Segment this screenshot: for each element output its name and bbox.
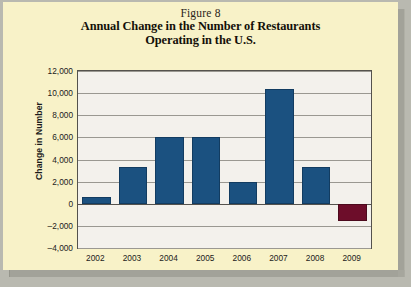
bar[interactable] — [82, 197, 111, 204]
bar[interactable] — [192, 137, 221, 203]
bar[interactable] — [155, 137, 184, 203]
x-axis-tick-label: 2005 — [187, 253, 224, 263]
x-axis-tick-label: 2009 — [333, 253, 370, 263]
gridline — [78, 248, 371, 249]
bar[interactable] — [265, 89, 294, 204]
x-axis-tick-label: 2003 — [114, 253, 151, 263]
bar[interactable] — [229, 182, 258, 204]
y-axis-tick-label: 10,000 — [27, 88, 73, 98]
bar-slot — [261, 71, 298, 248]
x-axis-tick-label: 2004 — [150, 253, 187, 263]
plot-area — [77, 70, 372, 249]
chart-title-line-2: Operating in the U.S. — [3, 34, 398, 48]
y-axis-tick-label: 2,000 — [27, 177, 73, 187]
bar-slot — [298, 71, 335, 248]
y-axis-tick-label: –2,000 — [27, 221, 73, 231]
x-axis-tick-label: 2006 — [224, 253, 261, 263]
page-shadow-bottom — [10, 270, 405, 277]
bar-slot — [225, 71, 262, 248]
y-axis-tick-label: –4,000 — [27, 243, 73, 253]
bar-series — [78, 71, 371, 248]
bar[interactable] — [302, 167, 331, 204]
x-axis-tick-labels: 20022003200420052006200720082009 — [77, 253, 372, 267]
x-axis-tick-label: 2007 — [260, 253, 297, 263]
y-axis-tick-label: 12,000 — [27, 66, 73, 76]
figure-page: Figure 8 Annual Change in the Number of … — [3, 2, 398, 270]
y-axis-tick-label: 6,000 — [27, 132, 73, 142]
bar-slot — [334, 71, 371, 248]
bar-slot — [78, 71, 115, 248]
bar[interactable] — [119, 167, 148, 204]
x-axis-tick-label: 2002 — [77, 253, 114, 263]
bar-slot — [188, 71, 225, 248]
bar-slot — [115, 71, 152, 248]
y-axis-tick-label: 0 — [27, 199, 73, 209]
figure-label: Figure 8 — [3, 7, 398, 19]
chart-title-line-1: Annual Change in the Number of Restauran… — [3, 20, 398, 34]
page-title: Annual Change in the Number of Restauran… — [3, 20, 398, 47]
page-shadow-right — [398, 9, 405, 277]
bar-slot — [151, 71, 188, 248]
y-axis-tick-label: 8,000 — [27, 110, 73, 120]
bar[interactable] — [338, 204, 367, 222]
x-axis-tick-label: 2008 — [297, 253, 334, 263]
y-axis-tick-label: 4,000 — [27, 155, 73, 165]
y-axis-tick-labels: 12,00010,0008,0006,0004,0002,0000–2,000–… — [25, 70, 73, 249]
